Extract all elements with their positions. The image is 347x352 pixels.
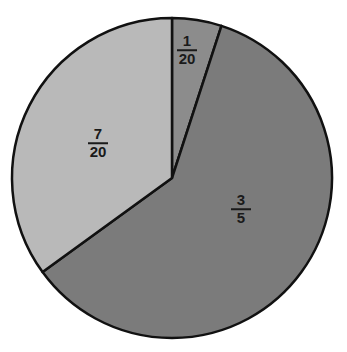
pie-chart — [0, 0, 347, 352]
label-numerator: 7 — [94, 127, 102, 141]
label-denominator: 20 — [179, 52, 196, 66]
label-numerator: 1 — [183, 34, 191, 48]
slice-label-3-5: 3 5 — [231, 193, 251, 225]
slice-label-1-20: 1 20 — [177, 34, 197, 66]
label-denominator: 5 — [237, 211, 245, 225]
label-denominator: 20 — [90, 145, 107, 159]
slice-label-7-20: 7 20 — [88, 127, 108, 159]
label-numerator: 3 — [237, 193, 245, 207]
